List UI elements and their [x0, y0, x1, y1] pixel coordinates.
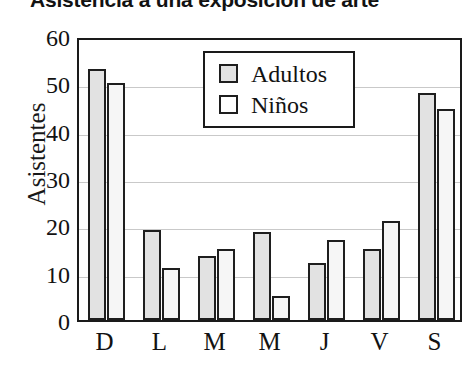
page-title: Asistencia a una exposición de arte — [30, 0, 476, 14]
bar — [363, 249, 381, 320]
bar-group — [409, 40, 464, 320]
bar — [143, 230, 161, 320]
y-axis-tick: 40 — [34, 121, 70, 145]
y-axis-tick: 10 — [34, 263, 70, 287]
bar — [198, 256, 216, 320]
bar-group — [79, 40, 134, 320]
x-axis-tick: L — [132, 328, 188, 356]
legend-item-adultos: Adultos — [205, 58, 353, 89]
chart-legend: Adultos Niños — [203, 51, 355, 128]
bar-group — [354, 40, 409, 320]
legend-label: Niños — [251, 93, 308, 117]
legend-swatch-icon-adultos — [219, 64, 238, 83]
bar — [308, 263, 326, 320]
bar — [162, 268, 180, 320]
x-axis-tick: M — [242, 328, 298, 356]
bar — [107, 83, 125, 320]
bar — [272, 296, 290, 320]
y-axis-tick: 30 — [34, 168, 70, 192]
x-axis-tick: J — [297, 328, 353, 356]
bar — [253, 232, 271, 320]
x-axis-tick: V — [352, 328, 408, 356]
y-axis-tick-labels: 6050403020100 — [30, 0, 70, 365]
legend-label: Adultos — [251, 62, 327, 86]
bar-chart-figure: Asistencia a una exposición de arte Asis… — [0, 0, 476, 365]
legend-swatch-icon-ninos — [219, 95, 238, 114]
bar — [327, 240, 345, 320]
x-axis-tick: S — [407, 328, 463, 356]
bar — [418, 93, 436, 320]
x-axis-tick: D — [77, 328, 133, 356]
y-axis-tick: 50 — [34, 73, 70, 97]
y-axis-tick: 60 — [34, 26, 70, 50]
plot-area: Adultos Niños — [77, 38, 462, 322]
bar-group — [134, 40, 189, 320]
y-axis-tick: 0 — [34, 310, 70, 334]
bar — [437, 109, 455, 320]
bar — [217, 249, 235, 320]
x-axis-tick: M — [187, 328, 243, 356]
bar — [382, 221, 400, 320]
legend-item-ninos: Niños — [205, 89, 353, 120]
y-axis-tick: 20 — [34, 215, 70, 239]
bar — [88, 69, 106, 320]
